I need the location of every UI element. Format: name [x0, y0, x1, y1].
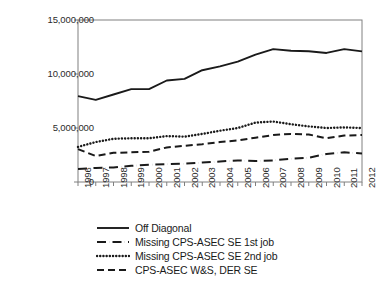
x-tick-label: 2002: [189, 167, 200, 188]
legend-line-swatch-icon: [96, 250, 130, 262]
y-tick-label: 15,000,000: [47, 14, 94, 25]
line-chart: 05,000,00010,000,00015,000,000 199619971…: [0, 0, 380, 282]
x-tick-label: 2012: [366, 167, 377, 188]
x-tick-label: 1999: [135, 167, 146, 188]
legend-item: Missing CPS-ASEC SE 1st job: [96, 235, 346, 249]
x-tick-label: 2007: [277, 167, 288, 188]
x-tick-label: 2010: [331, 167, 342, 188]
legend-item: CPS-ASEC W&S, DER SE: [96, 263, 346, 277]
x-tick-label: 2006: [260, 167, 271, 188]
chart-legend: Off DiagonalMissing CPS-ASEC SE 1st jobM…: [96, 221, 346, 277]
legend-item: Missing CPS-ASEC SE 2nd job: [96, 249, 346, 263]
y-tick-label: 10,000,000: [47, 68, 94, 79]
x-tick-label: 1997: [100, 167, 111, 188]
legend-line-swatch-icon: [96, 264, 130, 276]
x-tick-label: 2005: [242, 167, 253, 188]
x-tick-label: 2000: [153, 167, 164, 188]
legend-item-label: CPS-ASEC W&S, DER SE: [135, 264, 257, 276]
x-tick-label: 1998: [118, 167, 129, 188]
legend-line-swatch-icon: [96, 236, 130, 248]
x-tick-label: 2008: [295, 167, 306, 188]
legend-line-swatch-icon: [96, 222, 130, 234]
x-tick-label: 2001: [171, 167, 182, 188]
legend-item-label: Missing CPS-ASEC SE 1st job: [135, 236, 274, 248]
legend-item-label: Off Diagonal: [135, 222, 191, 234]
series-line-3: [78, 134, 362, 156]
series-line-2: [78, 122, 362, 147]
x-tick-label: 2011: [348, 168, 359, 188]
x-tick-label: 2004: [224, 167, 235, 188]
x-tick-label: 1996: [82, 167, 93, 188]
x-tick-label: 2009: [313, 167, 324, 188]
series-line-0: [78, 49, 362, 100]
x-tick-label: 2003: [206, 167, 217, 188]
y-tick-label: 5,000,000: [53, 122, 94, 133]
legend-item: Off Diagonal: [96, 221, 346, 235]
legend-item-label: Missing CPS-ASEC SE 2nd job: [135, 250, 277, 262]
